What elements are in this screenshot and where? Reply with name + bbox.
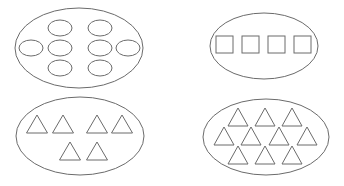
oval-shape: [116, 40, 140, 56]
triangle-shape: [53, 115, 74, 133]
square-shape: [216, 36, 233, 53]
diagram-canvas: [0, 0, 344, 186]
triangle-shape: [241, 127, 261, 145]
triangle-shape: [255, 108, 275, 126]
triangle-shape: [269, 127, 289, 145]
set-ovals-group: [15, 8, 143, 88]
triangle-shape: [228, 108, 248, 126]
oval-shape: [88, 20, 112, 36]
oval-shape: [48, 40, 72, 56]
triangle-shape: [282, 146, 302, 164]
set-container-ellipse: [15, 8, 143, 88]
triangle-shape: [214, 127, 234, 145]
triangle-shape: [297, 127, 317, 145]
triangle-shape: [60, 142, 81, 160]
oval-shape: [48, 20, 72, 36]
triangle-shape: [27, 115, 48, 133]
triangle-shape: [282, 108, 302, 126]
square-shape: [268, 36, 285, 53]
oval-shape: [48, 60, 72, 76]
triangle-shape: [87, 115, 108, 133]
set-squares-group: [210, 13, 318, 79]
square-shape: [242, 36, 259, 53]
set-triangles-10-group: [203, 99, 329, 175]
triangle-shape: [228, 146, 248, 164]
set-container-ellipse: [210, 13, 318, 79]
oval-shape: [88, 60, 112, 76]
oval-shape: [19, 40, 43, 56]
triangle-shape: [87, 142, 108, 160]
oval-shape: [88, 40, 112, 56]
sets-diagram: [0, 0, 344, 186]
set-triangles-6-group: [16, 97, 144, 175]
square-shape: [294, 36, 311, 53]
triangle-shape: [112, 115, 133, 133]
triangle-shape: [255, 146, 275, 164]
set-container-ellipse: [16, 97, 144, 175]
